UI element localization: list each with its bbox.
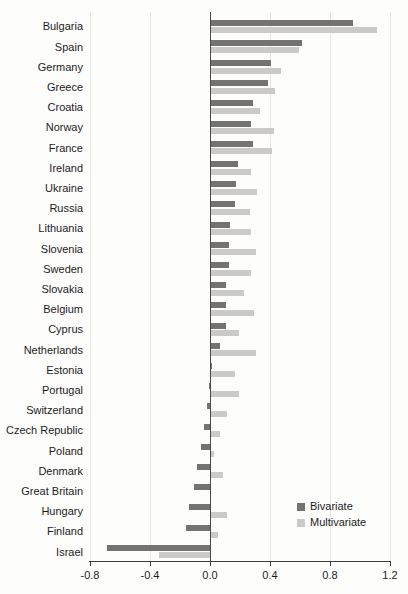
x-axis-tick bbox=[270, 562, 271, 566]
x-axis-tick bbox=[210, 562, 211, 566]
legend-item-bivariate: Bivariate bbox=[297, 501, 366, 512]
x-tick-label: -0.4 bbox=[141, 569, 160, 581]
legend-label-bivariate: Bivariate bbox=[310, 501, 353, 512]
x-tick-label: 0.4 bbox=[262, 569, 277, 581]
bivariate-swatch-icon bbox=[297, 503, 305, 511]
x-axis-line bbox=[89, 561, 391, 562]
x-tick-label: 0.8 bbox=[322, 569, 337, 581]
x-tick-label: 1.2 bbox=[382, 569, 397, 581]
bar-chart-figure: BulgariaSpainGermanyGreeceCroatiaNorwayF… bbox=[0, 0, 408, 594]
legend: Bivariate Multivariate bbox=[297, 501, 366, 528]
x-axis-tick bbox=[150, 562, 151, 566]
legend-item-multivariate: Multivariate bbox=[297, 517, 366, 528]
x-tick-label: 0.0 bbox=[202, 569, 217, 581]
legend-label-multivariate: Multivariate bbox=[310, 517, 366, 528]
x-axis-tick bbox=[390, 562, 391, 566]
multivariate-swatch-icon bbox=[297, 519, 305, 527]
x-tick-label: -0.8 bbox=[81, 569, 100, 581]
x-axis-tick bbox=[90, 562, 91, 566]
x-axis-tick bbox=[330, 562, 331, 566]
